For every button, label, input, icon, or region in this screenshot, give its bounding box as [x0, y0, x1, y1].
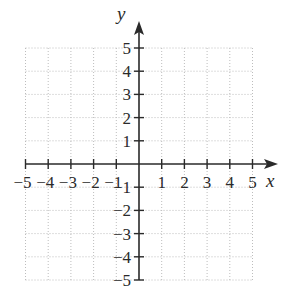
coordinate-plane: −5−4−3−2−112345 54321−1−2−3−4−5 x y [0, 0, 282, 293]
x-tick-label: −5 [13, 173, 31, 192]
y-tick-label: −3 [113, 225, 131, 244]
x-tick-label: 3 [203, 173, 212, 192]
x-tick-label: −3 [59, 173, 77, 192]
x-tick-label: 2 [180, 173, 189, 192]
y-axis-label: y [115, 3, 126, 24]
y-tick-label: −5 [113, 271, 131, 290]
y-tick-label: 5 [123, 39, 132, 58]
x-tick-label: 5 [248, 173, 257, 192]
y-tick-label: −4 [113, 248, 132, 267]
y-tick-label: 2 [123, 109, 132, 128]
x-axis-label: x [265, 170, 275, 191]
x-tick-labels: −5−4−3−2−112345 [13, 173, 256, 192]
x-tick-label: 4 [226, 173, 235, 192]
y-tick-label: −1 [113, 178, 131, 197]
y-tick-label: 1 [123, 132, 132, 151]
y-tick-label: 4 [123, 62, 132, 81]
y-tick-label: −2 [113, 201, 131, 220]
x-tick-label: −2 [82, 173, 100, 192]
axes [26, 21, 279, 280]
x-tick-label: −4 [36, 173, 55, 192]
x-tick-label: 1 [157, 173, 166, 192]
y-tick-label: 3 [123, 85, 132, 104]
